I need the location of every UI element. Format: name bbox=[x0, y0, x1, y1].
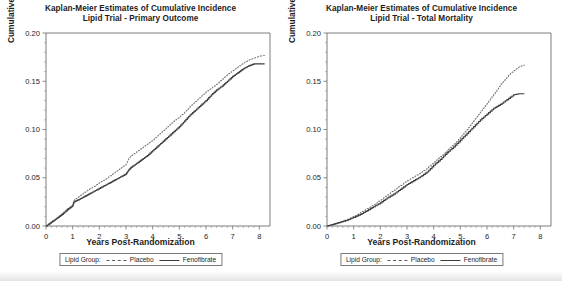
dashed-line-icon bbox=[388, 257, 408, 263]
legend-label-placebo: Placebo bbox=[411, 256, 435, 263]
y-axis-label-total-mortality: Cumulative Incidence bbox=[287, 0, 297, 60]
svg-text:0.20: 0.20 bbox=[306, 29, 321, 38]
dashed-line-icon bbox=[107, 257, 127, 263]
legend-entry-placebo[interactable]: Placebo bbox=[388, 256, 435, 263]
svg-text:0.00: 0.00 bbox=[25, 222, 40, 231]
legend-title: Lipid Group: bbox=[346, 256, 382, 263]
legend-entry-fenofibrate[interactable]: Fenofibrate bbox=[160, 256, 216, 263]
legend-entry-placebo[interactable]: Placebo bbox=[107, 256, 154, 263]
solid-line-icon bbox=[441, 257, 461, 263]
svg-text:0.05: 0.05 bbox=[25, 173, 40, 182]
svg-text:0.05: 0.05 bbox=[306, 173, 321, 182]
svg-text:0.00: 0.00 bbox=[306, 222, 321, 231]
svg-text:0.15: 0.15 bbox=[25, 77, 40, 86]
legend-total-mortality: Lipid Group: Placebo Fenofibrate bbox=[340, 253, 503, 266]
legend-entry-fenofibrate[interactable]: Fenofibrate bbox=[441, 256, 497, 263]
svg-text:0.10: 0.10 bbox=[306, 125, 321, 134]
page-bottom-cropped-text bbox=[4, 273, 558, 281]
legend-primary-outcome: Lipid Group: Placebo Fenofibrate bbox=[59, 253, 222, 266]
legend-label-fenofibrate: Fenofibrate bbox=[464, 256, 497, 263]
y-axis-label-primary-outcome: Cumulative Incidence bbox=[6, 0, 16, 60]
figure-container: Kaplan-Meier Estimates of Cumulative Inc… bbox=[0, 0, 562, 281]
svg-text:0.15: 0.15 bbox=[306, 77, 321, 86]
legend-label-placebo: Placebo bbox=[130, 256, 154, 263]
svg-text:0.20: 0.20 bbox=[25, 29, 40, 38]
legend-title: Lipid Group: bbox=[65, 256, 101, 263]
chart-panel-primary-outcome: Kaplan-Meier Estimates of Cumulative Inc… bbox=[0, 0, 281, 281]
legend-label-fenofibrate: Fenofibrate bbox=[183, 256, 216, 263]
solid-line-icon bbox=[160, 257, 180, 263]
x-axis-label-total-mortality: Years Post-Randomization bbox=[281, 237, 562, 247]
svg-text:0.10: 0.10 bbox=[25, 125, 40, 134]
x-axis-label-primary-outcome: Years Post-Randomization bbox=[0, 237, 281, 247]
chart-panel-total-mortality: Kaplan-Meier Estimates of Cumulative Inc… bbox=[281, 0, 562, 281]
